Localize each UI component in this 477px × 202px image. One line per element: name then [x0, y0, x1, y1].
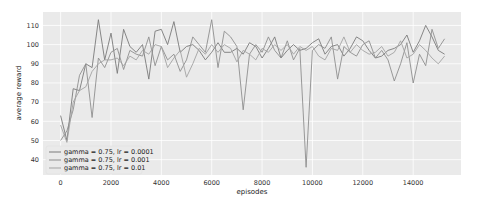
y-axis-label: average reward: [15, 65, 23, 120]
x-tick-label: 8000: [254, 179, 271, 187]
y-tick-label: 60: [31, 118, 39, 126]
legend-label: gamma = 0.75, lr = 0.0001: [64, 148, 154, 156]
y-tick-label: 80: [31, 79, 39, 87]
legend: gamma = 0.75, lr = 0.0001gamma = 0.75, l…: [46, 146, 154, 174]
y-tick-label: 110: [27, 22, 39, 30]
line-chart: 02000400060008000100001200014000 4050607…: [0, 0, 477, 202]
x-tick-label: 6000: [203, 179, 220, 187]
x-axis-ticks: 02000400060008000100001200014000: [59, 179, 424, 187]
legend-label: gamma = 0.75, lr = 0.01: [64, 164, 145, 172]
legend-label: gamma = 0.75, lr = 0.001: [64, 156, 150, 164]
y-tick-label: 100: [27, 41, 39, 49]
x-tick-label: 0: [59, 179, 63, 187]
y-tick-label: 40: [31, 156, 39, 164]
y-axis-ticks: 405060708090100110: [27, 22, 39, 164]
y-tick-label: 50: [31, 137, 39, 145]
y-tick-label: 90: [31, 60, 39, 68]
x-tick-label: 12000: [352, 179, 373, 187]
y-tick-label: 70: [31, 98, 39, 106]
x-tick-label: 10000: [302, 179, 323, 187]
x-tick-label: 14000: [403, 179, 424, 187]
x-tick-label: 2000: [103, 179, 120, 187]
x-tick-label: 4000: [153, 179, 170, 187]
x-axis-label: episodes: [236, 188, 267, 196]
